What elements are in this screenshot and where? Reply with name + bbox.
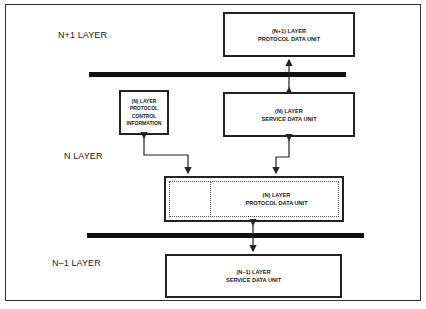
arrow-pci-to-pdu <box>144 138 188 173</box>
arrow-sdu-to-pdu <box>276 140 289 173</box>
connector-arrows <box>0 0 426 309</box>
